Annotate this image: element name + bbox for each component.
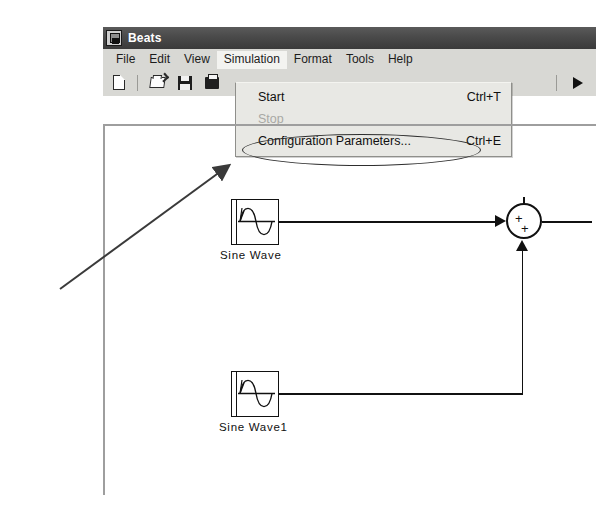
sine-wave-block[interactable] (231, 199, 279, 245)
sine-wave1-block-label: Sine Wave1 (219, 421, 288, 433)
start-simulation-icon[interactable] (566, 73, 588, 93)
screenshot-root: Beats File Edit View Simulation Format T… (0, 0, 596, 513)
sine-wave-glyph (233, 200, 277, 243)
signal-arrowhead-sum-input-1 (495, 215, 506, 227)
menu-simulation[interactable]: Simulation (217, 51, 287, 69)
menu-edit[interactable]: Edit (142, 51, 177, 69)
menu-tools[interactable]: Tools (339, 51, 381, 69)
menu-item-start-label: Start (258, 90, 453, 104)
toolbar-separator-2 (556, 75, 557, 91)
new-model-icon[interactable] (108, 73, 130, 93)
menu-help[interactable]: Help (381, 51, 420, 69)
sine-wave-block-label: Sine Wave (220, 249, 281, 261)
simulink-model-icon (106, 30, 122, 46)
open-model-icon[interactable] (147, 73, 169, 93)
sum-sign-2: + (521, 224, 529, 234)
sum-port-stub-top (523, 197, 525, 204)
canvas-top-border (103, 124, 596, 126)
canvas-left-border (103, 124, 105, 495)
window-title: Beats (128, 31, 162, 45)
menu-file[interactable]: File (109, 51, 142, 69)
menu-format[interactable]: Format (287, 51, 339, 69)
sum-block[interactable]: + + (506, 203, 542, 239)
print-model-icon[interactable] (201, 73, 223, 93)
signal-line-sine-to-sum (279, 221, 497, 223)
signal-line-sum-output (542, 221, 592, 223)
menu-item-configuration-parameters[interactable]: Configuration Parameters... Ctrl+E (236, 130, 511, 152)
simulation-dropdown-menu: Start Ctrl+T Stop Configuration Paramete… (235, 82, 512, 157)
window-titlebar[interactable]: Beats (103, 27, 596, 49)
signal-line-sine1-vertical (522, 251, 524, 394)
menu-item-stop: Stop (236, 108, 511, 130)
menu-item-configuration-parameters-accel: Ctrl+E (452, 134, 501, 148)
sine-wave1-block[interactable] (231, 371, 279, 417)
menubar: File Edit View Simulation Format Tools H… (103, 49, 596, 70)
signal-line-sine1-horizontal (279, 393, 523, 395)
menu-item-start[interactable]: Start Ctrl+T (236, 86, 511, 108)
save-model-icon[interactable] (174, 73, 196, 93)
menu-item-start-accel: Ctrl+T (453, 90, 501, 104)
menu-item-configuration-parameters-label: Configuration Parameters... (258, 134, 452, 148)
toolbar-separator-1 (137, 75, 138, 91)
sine-wave1-glyph (233, 372, 277, 415)
signal-arrowhead-sum-input-2 (516, 240, 528, 251)
menu-view[interactable]: View (177, 51, 217, 69)
